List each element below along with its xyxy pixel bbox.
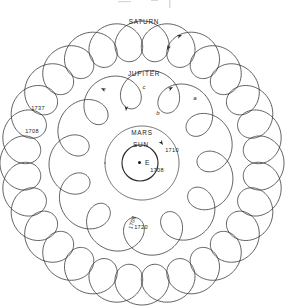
year-label-1710-2: 1710 <box>165 147 179 153</box>
label-earth: E <box>145 159 150 166</box>
node-a-label: a <box>193 95 197 101</box>
crop-mark-right <box>169 0 170 8</box>
arrow-jupiter-2 <box>124 106 128 111</box>
crop-mark-left <box>118 1 131 2</box>
year-label-1720-5: 1720 <box>134 224 148 230</box>
saturn-epicycloid <box>0 21 284 305</box>
mars-orbit-path <box>105 126 179 200</box>
epicycle-diagram: SATURN JUPITER MARS SUN E 17371708171017… <box>0 0 285 306</box>
label-layer: SATURN JUPITER MARS SUN E <box>128 18 160 166</box>
node-c-label: c <box>142 84 145 90</box>
label-mars: MARS <box>131 129 153 136</box>
crop-mark-mid <box>151 0 158 1</box>
label-sun: SUN <box>133 141 149 148</box>
arrow-jupiter <box>100 86 106 92</box>
label-jupiter: JUPITER <box>128 70 160 77</box>
diagram-canvas: SATURN JUPITER MARS SUN E 17371708171017… <box>0 0 285 306</box>
saturn-orbit-path <box>0 21 284 305</box>
year-label-1708-3: 1708 <box>150 167 164 173</box>
mars-epicycloid <box>105 126 179 200</box>
year-label-1737-0: 1737 <box>31 105 45 111</box>
year-label-1708-1: 1708 <box>25 128 39 134</box>
earth-marker <box>138 161 141 164</box>
label-saturn: SATURN <box>129 18 160 25</box>
node-b-label: b <box>156 110 160 116</box>
arrow-mars <box>159 140 165 146</box>
crop-marks-group <box>118 0 170 8</box>
node-label-layer: abc <box>142 84 197 116</box>
earth-dot <box>138 161 141 164</box>
